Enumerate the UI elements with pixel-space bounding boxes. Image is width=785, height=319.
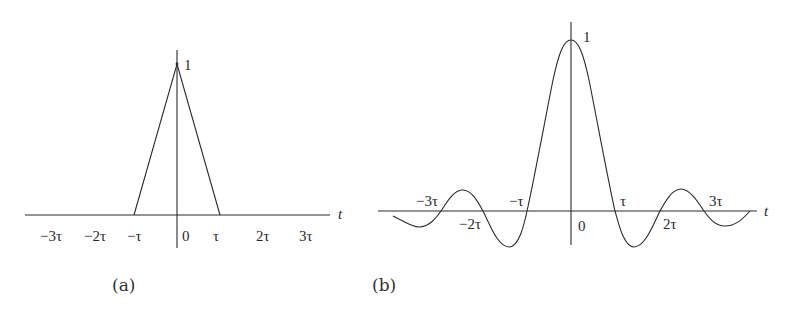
panel-a-tick-neg3: −3τ <box>40 228 62 244</box>
panel-a-tick-pos1: τ <box>213 228 219 244</box>
panel-a-peak-label: 1 <box>184 57 192 73</box>
panel-b-tick-pos3: 3τ <box>709 193 723 209</box>
panel-b-tick-pos1: τ <box>620 193 626 209</box>
figure: 1 t −3τ −2τ −τ 0 τ 2τ 3τ (a) 1 t −3τ −2τ… <box>0 0 785 319</box>
panel-a-tick-pos2: 2τ <box>256 228 270 244</box>
panel-a-tick-pos3: 3τ <box>299 228 313 244</box>
panel-b-peak-label: 1 <box>583 29 591 45</box>
panel-b-tick-pos2: 2τ <box>663 216 677 232</box>
panel-b-axis-label: t <box>764 203 769 219</box>
panel-b-tick-zero: 0 <box>578 218 586 234</box>
panel-a: 1 t −3τ −2τ −τ 0 τ 2τ 3τ (a) <box>25 50 343 295</box>
panel-b: 1 t −3τ −2τ −τ 0 τ 2τ 3τ (b) <box>372 22 769 295</box>
panel-b-tick-neg1: −τ <box>509 193 524 209</box>
panel-b-tick-neg3: −3τ <box>416 193 438 209</box>
panel-a-peak-dot <box>176 63 179 66</box>
panel-a-tick-neg1: −τ <box>127 228 142 244</box>
panel-a-axis-label: t <box>338 206 343 222</box>
panel-b-tick-neg2: −2τ <box>459 216 481 232</box>
panel-a-caption: (a) <box>112 275 135 295</box>
panel-b-caption: (b) <box>372 275 396 295</box>
panel-a-tick-zero: 0 <box>182 228 190 244</box>
panel-a-tick-neg2: −2τ <box>84 228 106 244</box>
